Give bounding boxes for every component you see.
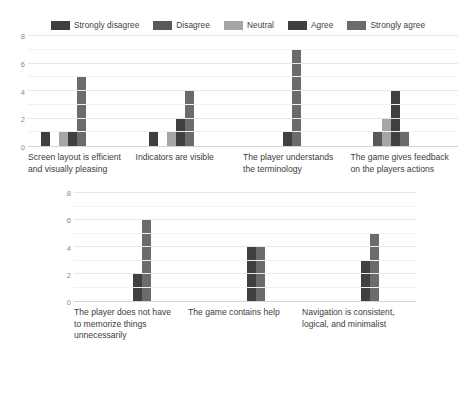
y-axis-tick-label: 8 xyxy=(67,189,71,198)
legend-item-label: Strongly agree xyxy=(370,20,425,30)
legend-swatch-icon xyxy=(288,21,307,30)
plot-area-2 xyxy=(74,193,416,302)
gridline-minor xyxy=(74,260,416,261)
bar[interactable] xyxy=(41,132,50,146)
legend-item[interactable]: Disagree xyxy=(153,20,210,30)
legend-item-label: Neutral xyxy=(247,20,274,30)
bar-group xyxy=(28,36,136,146)
bar[interactable] xyxy=(167,132,176,146)
bar[interactable] xyxy=(133,274,142,301)
gridline-minor xyxy=(28,131,458,132)
gridline-major xyxy=(74,219,416,220)
gridline-major xyxy=(74,192,416,193)
bar-groups-2 xyxy=(74,193,416,301)
legend-item[interactable]: Strongly agree xyxy=(347,20,425,30)
gridline-major xyxy=(28,63,458,64)
gridline-minor xyxy=(74,233,416,234)
legend-item[interactable]: Strongly disagree xyxy=(51,20,139,30)
x-axis-category-label: Navigation is consistent, logical, and m… xyxy=(302,307,416,342)
bar[interactable] xyxy=(400,132,409,146)
legend-swatch-icon xyxy=(51,21,70,30)
legend-swatch-icon xyxy=(347,21,366,30)
legend-item-label: Agree xyxy=(311,20,333,30)
legend-item[interactable]: Agree xyxy=(288,20,333,30)
gridline-major xyxy=(28,35,458,36)
y-axis-tick-label: 6 xyxy=(67,216,71,225)
y-axis-1: 02468 xyxy=(12,36,28,147)
bar[interactable] xyxy=(370,234,379,302)
plot-area-wrapper-2: 02468 xyxy=(58,193,416,302)
x-axis-category-label: The game contains help xyxy=(188,307,302,342)
y-axis-tick-label: 0 xyxy=(21,143,25,152)
y-axis-tick-label: 8 xyxy=(21,32,25,41)
legend-item-label: Strongly disagree xyxy=(74,20,139,30)
bar[interactable] xyxy=(247,247,256,301)
x-axis-category-label: The player does not have to memorize thi… xyxy=(74,307,188,342)
y-axis-tick-label: 6 xyxy=(21,59,25,68)
x-axis-category-label: The player understands the terminology xyxy=(243,152,351,175)
y-axis-tick-label: 2 xyxy=(67,270,71,279)
gridline-minor xyxy=(28,104,458,105)
survey-bar-chart-2: 02468 The player does not have to memori… xyxy=(58,193,416,342)
x-axis-category-label: Screen layout is efficient and visually … xyxy=(28,152,136,175)
gridline-minor xyxy=(28,49,458,50)
gridline-major xyxy=(74,273,416,274)
bar[interactable] xyxy=(77,77,86,146)
bar[interactable] xyxy=(185,91,194,146)
bar-group xyxy=(351,36,459,146)
bar[interactable] xyxy=(373,132,382,146)
gridline-minor xyxy=(74,206,416,207)
y-axis-tick-label: 0 xyxy=(67,298,71,307)
bar-group xyxy=(188,193,302,301)
legend-swatch-icon xyxy=(153,21,172,30)
x-axis-category-label: Indicators are visible xyxy=(136,152,244,175)
legend-item[interactable]: Neutral xyxy=(224,20,274,30)
x-axis-category-label: The game gives feedback on the players a… xyxy=(351,152,459,175)
bar[interactable] xyxy=(391,91,400,146)
bar[interactable] xyxy=(361,261,370,302)
plot-area-1 xyxy=(28,36,458,147)
chart-legend: Strongly disagreeDisagreeNeutralAgreeStr… xyxy=(0,0,476,32)
y-axis-tick-label: 4 xyxy=(21,87,25,96)
bar[interactable] xyxy=(382,119,391,147)
bar-group xyxy=(243,36,351,146)
y-axis-tick-label: 2 xyxy=(21,115,25,124)
x-axis-labels-2: The player does not have to memorize thi… xyxy=(58,302,416,342)
bar[interactable] xyxy=(283,132,292,146)
survey-bar-chart-1: 02468 Screen layout is efficient and vis… xyxy=(12,36,458,175)
gridline-major xyxy=(28,118,458,119)
bar-group xyxy=(136,36,244,146)
bar[interactable] xyxy=(176,119,185,147)
bar[interactable] xyxy=(59,132,68,146)
legend-item-label: Disagree xyxy=(176,20,210,30)
gridline-major xyxy=(28,90,458,91)
bar[interactable] xyxy=(256,247,265,301)
y-axis-tick-label: 4 xyxy=(67,243,71,252)
bar[interactable] xyxy=(149,132,158,146)
y-axis-2: 02468 xyxy=(58,193,74,302)
bar-groups-1 xyxy=(28,36,458,146)
legend-swatch-icon xyxy=(224,21,243,30)
gridline-minor xyxy=(74,287,416,288)
bar-group xyxy=(74,193,188,301)
bar-group xyxy=(302,193,416,301)
bar[interactable] xyxy=(68,132,77,146)
gridline-major xyxy=(74,246,416,247)
plot-area-wrapper-1: 02468 xyxy=(12,36,458,147)
gridline-minor xyxy=(28,76,458,77)
x-axis-labels-1: Screen layout is efficient and visually … xyxy=(12,147,458,175)
